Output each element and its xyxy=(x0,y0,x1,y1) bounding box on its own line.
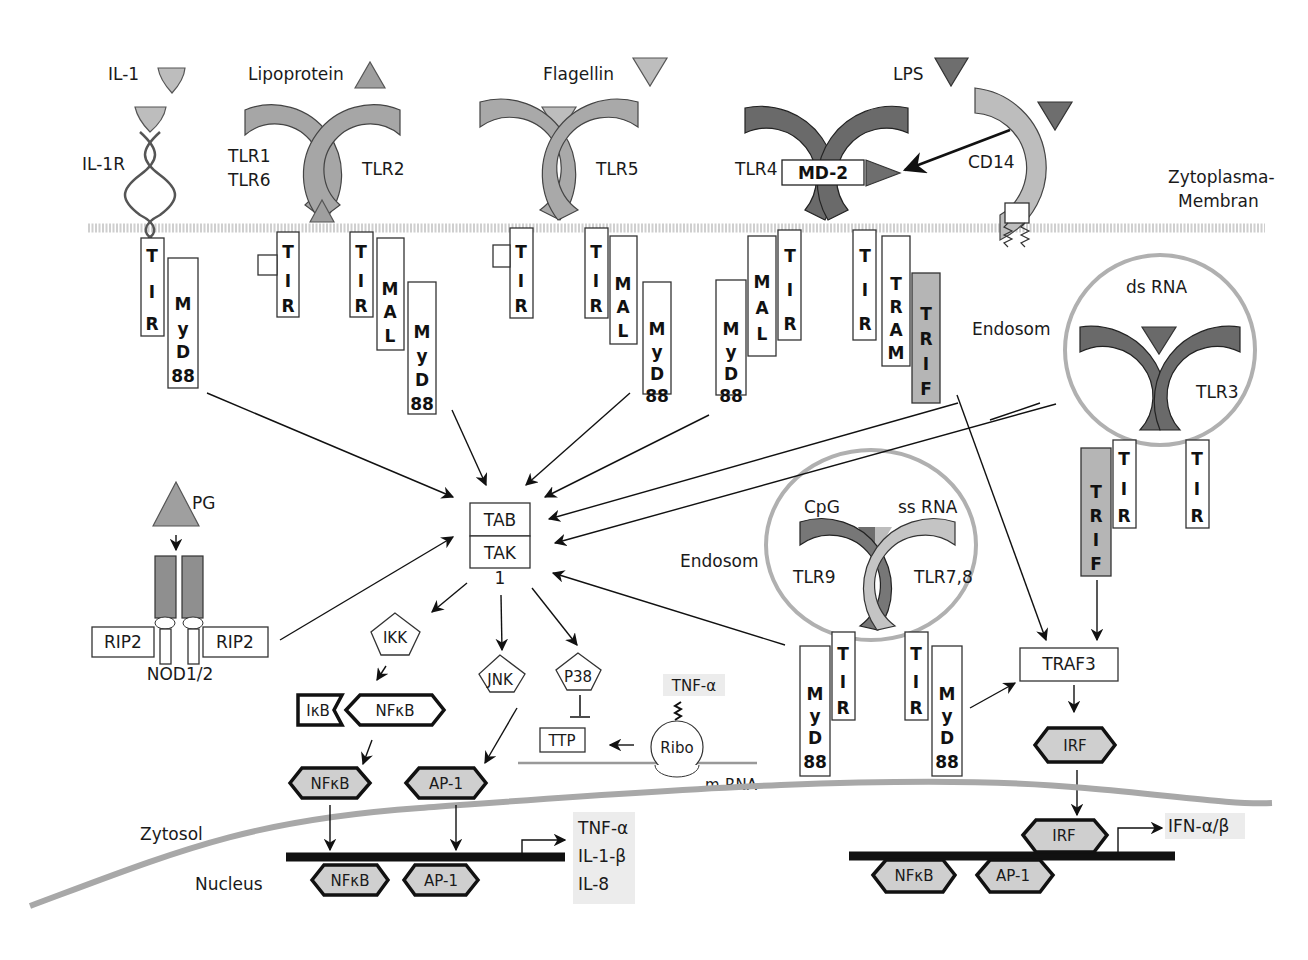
svg-text:CD14: CD14 xyxy=(968,152,1015,172)
svg-text:T: T xyxy=(890,274,902,294)
lps-label: LPS xyxy=(893,64,924,84)
svg-text:D: D xyxy=(940,728,954,748)
svg-text:M: M xyxy=(382,279,399,299)
svg-text:TNF-α: TNF-α xyxy=(671,677,716,695)
flagellin-icon xyxy=(633,58,667,86)
svg-text:D: D xyxy=(650,364,664,384)
svg-text:IRF: IRF xyxy=(1063,737,1086,755)
svg-text:I: I xyxy=(862,280,868,300)
svg-text:IκB: IκB xyxy=(306,702,330,720)
activation-arrows xyxy=(207,393,1097,708)
lipoprotein-label: Lipoprotein xyxy=(248,64,344,84)
tlr9-tlr78-group: CpG ss RNA Endosom TLR9 TLR7,8 T I R M y… xyxy=(680,450,976,776)
svg-text:R: R xyxy=(858,314,871,334)
cytosol-label: Zytosol xyxy=(140,824,203,844)
svg-text:AP-1: AP-1 xyxy=(429,775,463,793)
svg-text:L: L xyxy=(385,326,396,346)
svg-text:y: y xyxy=(416,346,427,366)
svg-text:TLR4: TLR4 xyxy=(734,159,777,179)
svg-text:I: I xyxy=(149,282,155,302)
svg-text:IKK: IKK xyxy=(383,629,408,647)
svg-text:88: 88 xyxy=(171,366,195,386)
svg-text:R: R xyxy=(919,329,932,349)
svg-text:88: 88 xyxy=(410,394,434,414)
svg-text:Endosom: Endosom xyxy=(972,319,1051,339)
svg-text:AP-1: AP-1 xyxy=(424,872,458,890)
svg-text:y: y xyxy=(725,342,736,362)
svg-text:I: I xyxy=(518,271,524,291)
svg-text:TAB: TAB xyxy=(483,510,516,530)
svg-text:T: T xyxy=(515,242,527,262)
lps-icon xyxy=(935,58,968,86)
svg-text:R: R xyxy=(783,314,796,334)
svg-text:TAK: TAK xyxy=(483,543,517,563)
svg-text:A: A xyxy=(616,297,630,317)
svg-text:TNF-α: TNF-α xyxy=(577,818,628,838)
svg-text:y: y xyxy=(809,706,820,726)
svg-text:R: R xyxy=(1117,506,1130,526)
svg-text:AP-1: AP-1 xyxy=(996,867,1030,885)
svg-text:I: I xyxy=(1121,479,1127,499)
svg-text:MD-2: MD-2 xyxy=(798,163,848,183)
svg-text:TLR6: TLR6 xyxy=(227,170,270,190)
svg-text:F: F xyxy=(920,379,932,399)
svg-text:IRF: IRF xyxy=(1052,827,1075,845)
il1r-label: IL-1R xyxy=(82,154,125,174)
svg-text:88: 88 xyxy=(719,386,743,406)
svg-text:I: I xyxy=(285,271,291,291)
tlr2-group: Lipoprotein TLR1 TLR6 TLR2 T I R T I R M… xyxy=(227,62,436,414)
svg-text:88: 88 xyxy=(645,386,669,406)
svg-text:P38: P38 xyxy=(564,668,592,686)
svg-text:R: R xyxy=(836,698,849,718)
svg-text:y: y xyxy=(177,319,188,339)
svg-text:L: L xyxy=(618,321,629,341)
svg-text:T: T xyxy=(859,246,871,266)
svg-text:TRAF3: TRAF3 xyxy=(1041,654,1096,674)
svg-text:T: T xyxy=(1118,449,1130,469)
svg-text:M: M xyxy=(754,272,771,292)
nucleus-right-promoter: IRF NFκB AP-1 IFN-α/β xyxy=(849,813,1245,892)
svg-text:T: T xyxy=(1090,482,1102,502)
svg-text:y: y xyxy=(941,706,952,726)
svg-text:A: A xyxy=(889,320,903,340)
svg-text:Ribo: Ribo xyxy=(660,739,693,757)
svg-text:I: I xyxy=(840,672,846,692)
svg-text:D: D xyxy=(415,370,429,390)
il1-bound-icon xyxy=(135,107,166,132)
tab-tak-complex: TAB TAK 1 xyxy=(470,503,530,588)
svg-text:T: T xyxy=(837,644,849,664)
svg-text:R: R xyxy=(889,297,902,317)
pathway-diagram: Zytoplasma- Membran IL-1 IL-1R T I R M y… xyxy=(0,0,1308,960)
svg-text:ds RNA: ds RNA xyxy=(1126,277,1188,297)
svg-text:I: I xyxy=(1194,479,1200,499)
svg-text:T: T xyxy=(146,246,158,266)
svg-text:TTP: TTP xyxy=(547,732,575,750)
svg-text:R: R xyxy=(909,698,922,718)
svg-text:L: L xyxy=(757,324,768,344)
svg-text:A: A xyxy=(383,302,397,322)
svg-text:NFκB: NFκB xyxy=(895,867,934,885)
svg-text:I: I xyxy=(1093,530,1099,550)
svg-text:A: A xyxy=(755,298,769,318)
svg-text:TLR2: TLR2 xyxy=(361,159,404,179)
membrane-label-2: Membran xyxy=(1178,191,1259,211)
svg-text:1: 1 xyxy=(495,568,506,588)
svg-text:R: R xyxy=(354,296,367,316)
svg-text:CpG: CpG xyxy=(804,497,840,517)
svg-text:NFκB: NFκB xyxy=(311,775,350,793)
svg-text:M: M xyxy=(649,319,666,339)
svg-text:I: I xyxy=(787,280,793,300)
svg-text:RIP2: RIP2 xyxy=(216,632,254,652)
svg-text:NFκB: NFκB xyxy=(376,702,415,720)
svg-text:R: R xyxy=(145,314,158,334)
svg-text:D: D xyxy=(808,728,822,748)
svg-text:R: R xyxy=(1089,506,1102,526)
flagellin-label: Flagellin xyxy=(543,64,614,84)
svg-text:R: R xyxy=(281,296,294,316)
svg-text:T: T xyxy=(590,242,602,262)
svg-text:JNK: JNK xyxy=(486,671,514,689)
svg-text:R: R xyxy=(514,296,527,316)
il1-label: IL-1 xyxy=(108,64,139,84)
svg-text:NFκB: NFκB xyxy=(331,872,370,890)
svg-text:M: M xyxy=(888,343,905,363)
